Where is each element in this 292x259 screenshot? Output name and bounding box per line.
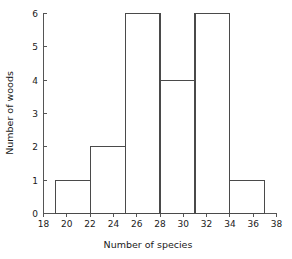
y-tick-label: 5 <box>32 42 38 52</box>
x-tick-label: 36 <box>247 219 259 229</box>
x-tick-label: 32 <box>201 219 212 229</box>
y-tick-label: 2 <box>32 142 38 152</box>
y-tick-label: 6 <box>32 9 38 19</box>
x-axis-title: Number of species <box>104 239 193 250</box>
x-axis-tick-labels: 18 20 22 24 26 28 30 32 34 36 38 <box>38 219 283 229</box>
x-tick-label: 28 <box>154 219 166 229</box>
y-tick-label: 0 <box>32 209 38 219</box>
x-tick-label: 18 <box>38 219 50 229</box>
y-axis-tick-labels: 0 1 2 3 4 5 6 <box>32 9 38 219</box>
histogram-bars <box>55 14 265 214</box>
x-tick-label: 26 <box>131 219 143 229</box>
x-tick-label: 24 <box>108 219 120 229</box>
histogram-bar <box>125 14 160 214</box>
x-tick-label: 20 <box>61 219 73 229</box>
x-tick-label: 34 <box>224 219 236 229</box>
y-tick-label: 3 <box>32 109 38 119</box>
x-tick-label: 30 <box>178 219 190 229</box>
histogram-bar <box>55 180 90 213</box>
y-tick-label: 1 <box>32 176 38 186</box>
histogram-bar <box>230 180 265 213</box>
x-tick-label: 22 <box>84 219 95 229</box>
histogram-svg: Number of woods Number of species 0 1 2 … <box>0 0 292 259</box>
histogram-bar <box>90 147 125 214</box>
y-axis-title: Number of woods <box>4 71 15 155</box>
y-tick-label: 4 <box>32 76 38 86</box>
histogram-bar <box>195 14 230 214</box>
histogram-bar <box>160 80 195 213</box>
histogram-chart: Number of woods Number of species 0 1 2 … <box>0 0 292 259</box>
x-tick-label: 38 <box>271 219 283 229</box>
